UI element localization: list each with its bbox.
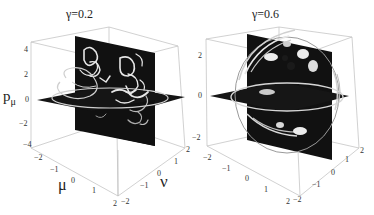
tick-label: −1 [222, 165, 231, 173]
panel-title: γ=0.2 [66, 7, 93, 22]
tick-label: 1 [92, 187, 96, 195]
nu-axis-label: ν [160, 173, 168, 190]
tick-label: −2 [34, 154, 43, 162]
3d-plot-box-right [187, 0, 374, 215]
panel-gamma-0.2: γ=0.2 4 2 0 −2 −4 pμ −2 −1 0 1 2 μ −2 −1… [0, 0, 190, 215]
tick-label: 0 [71, 177, 75, 185]
tick-label: 2 [198, 52, 202, 60]
tick-label: −2 [192, 134, 201, 142]
tick-label: −1 [50, 166, 59, 174]
tick-label: −2 [19, 120, 28, 128]
tick-label: −2 [293, 196, 302, 204]
tick-label: 1 [264, 186, 268, 194]
tick-label: 2 [286, 198, 290, 206]
tick-label: 2 [360, 147, 364, 155]
tick-label: −1 [140, 182, 149, 190]
tick-label: −4 [23, 141, 32, 149]
tick-label: 2 [113, 200, 117, 208]
tick-label: 2 [24, 71, 28, 79]
tick-label: 0 [331, 169, 335, 177]
panel-gamma-0.6: γ=0.6 2 0 −2 −2 −1 0 1 2 −2 −1 0 1 2 [187, 0, 374, 215]
vertical-axis-label: pμ [3, 89, 16, 107]
tick-label: 0 [25, 96, 29, 104]
mu-axis-label: μ [58, 177, 67, 193]
tick-label: 1 [174, 158, 178, 166]
panel-title: γ=0.6 [252, 7, 279, 22]
tick-label: 1 [345, 156, 349, 164]
tick-label: −2 [121, 198, 130, 206]
tick-label: 4 [24, 46, 28, 54]
tick-label: 0 [245, 175, 249, 183]
tick-label: −2 [203, 154, 212, 162]
tick-label: 0 [198, 92, 202, 100]
tick-label: −1 [312, 181, 321, 189]
